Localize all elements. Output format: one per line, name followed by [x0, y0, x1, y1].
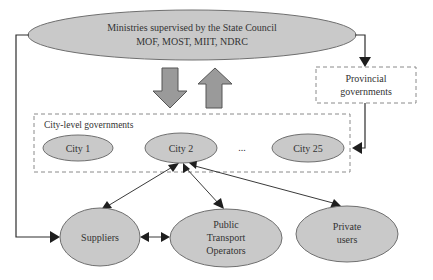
connector-city2-suppliers: [101, 163, 179, 210]
provincial-label-line2: governments: [340, 86, 392, 97]
arrowhead-right-icon: [161, 232, 170, 242]
connector-city2-private-users: [189, 161, 341, 208]
operators-label-line3: Operators: [206, 245, 246, 256]
provincial-label-line1: Provincial: [345, 73, 386, 84]
ministries-label-line1: Ministries supervised by the State Counc…: [107, 22, 277, 33]
ministries-label-line2: MOF, MOST, MIIT, NDRC: [136, 36, 248, 47]
city-1-label: City 1: [66, 143, 91, 154]
connector-suppliers-operators: [140, 232, 170, 242]
connector-ministries-to-provincial: [355, 35, 371, 67]
city-25-node: City 25: [272, 134, 344, 162]
suppliers-node: Suppliers: [60, 208, 140, 266]
city-level-title: City-level governments: [44, 120, 134, 130]
cities-ellipsis: ...: [238, 142, 246, 153]
arrowhead-icon: [168, 163, 179, 172]
private-users-label-line1: Private: [333, 221, 362, 232]
ministries-node: Ministries supervised by the State Counc…: [28, 10, 356, 60]
city-2-node: City 2: [145, 133, 217, 163]
city-25-label: City 25: [293, 143, 323, 154]
connector-provincial-to-cities: [352, 103, 365, 154]
city-1-node: City 1: [43, 135, 113, 161]
suppliers-label: Suppliers: [81, 232, 119, 243]
big-down-arrow-icon: [153, 68, 187, 108]
arrowhead-left-icon: [140, 232, 149, 242]
city-2-label: City 2: [169, 143, 194, 154]
public-transport-operators-node: Public Transport Operators: [170, 209, 282, 267]
governance-diagram: Ministries supervised by the State Counc…: [0, 0, 433, 280]
arrowhead-right-icon: [50, 231, 60, 243]
private-users-label-line2: users: [337, 234, 358, 245]
operators-label-line2: Transport: [207, 232, 246, 243]
provincial-node: Provincial governments: [316, 67, 416, 103]
operators-label-line1: Public: [213, 219, 239, 230]
arrowhead-left-icon: [352, 142, 362, 154]
private-users-node: Private users: [296, 206, 398, 262]
big-up-arrow-icon: [198, 68, 232, 108]
connector-city2-operators: [183, 163, 224, 209]
arrowhead-down-icon: [359, 57, 371, 67]
